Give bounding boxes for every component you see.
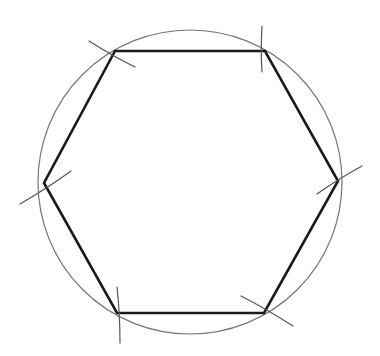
circumscribed-circle — [38, 30, 342, 334]
hexagon-construction-diagram — [0, 0, 380, 356]
compass-arc-marks — [20, 26, 362, 343]
regular-hexagon — [44, 51, 338, 313]
arc-mark-right — [317, 166, 362, 194]
arc-mark-top-right — [261, 26, 262, 72]
